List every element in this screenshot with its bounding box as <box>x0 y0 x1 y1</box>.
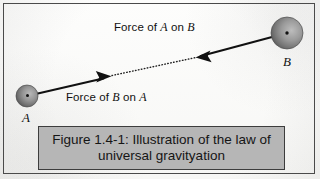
body-a-label: A <box>22 110 30 126</box>
force-label-a-on-b-middle: on <box>168 21 188 33</box>
body-a-sphere <box>16 85 38 107</box>
body-b-sphere <box>271 17 303 49</box>
force-label-b-on-a-prefix: Force of <box>66 91 112 103</box>
figure-container: Force of A on B Force of B on A A B Figu… <box>0 0 320 179</box>
figure-caption-line-2: universal gravityation <box>98 149 225 164</box>
force-label-b-on-a-second-body: A <box>139 90 146 104</box>
force-label-a-on-b-prefix: Force of <box>114 21 160 33</box>
force-label-b-on-a-middle: on <box>120 91 140 103</box>
force-label-a-on-b-second-body: B <box>187 20 194 34</box>
force-label-b-on-a-first-body: B <box>112 90 119 104</box>
force-label-a-on-b: Force of A on B <box>114 20 195 35</box>
figure-caption-box: Figure 1.4-1: Illustration of the law of… <box>38 126 285 170</box>
force-label-a-on-b-first-body: A <box>160 20 167 34</box>
dotted-connector-line <box>112 58 196 76</box>
force-label-b-on-a: Force of B on A <box>66 90 147 105</box>
body-b-label: B <box>283 54 291 70</box>
figure-caption-line-1: Figure 1.4-1: Illustration of the law of <box>52 133 270 148</box>
